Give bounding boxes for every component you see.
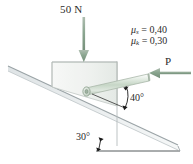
mu-kinetic-value: = 0,30 <box>139 35 167 46</box>
rod-end-bore <box>85 89 88 93</box>
incline-base-corner <box>178 146 180 151</box>
base-triangle <box>96 146 180 151</box>
mu-kinetic-label: μk = 0,30 <box>131 36 167 47</box>
p-arrow-shaft <box>158 72 191 75</box>
force-p-label: P <box>165 56 171 67</box>
mu-static-value: = 0,40 <box>139 24 167 35</box>
incline-angle-indicator <box>96 137 104 151</box>
incline-angle-arrow-top <box>99 137 104 141</box>
rod-angle-arrow-bottom <box>123 106 128 111</box>
load-arrow-shaft <box>83 17 86 53</box>
force-arrow-p <box>149 68 191 78</box>
load-arrow-head <box>79 50 89 62</box>
load-arrow-50n <box>79 17 89 62</box>
p-arrow-head <box>149 68 160 78</box>
incline-angle-label: 30° <box>76 132 90 142</box>
load-label: 50 N <box>60 4 83 15</box>
physics-diagram-figure: 50 N P 40° 30° μs = 0,40 μk = 0,30 <box>0 0 193 164</box>
rod-angle-label: 40° <box>130 93 144 103</box>
